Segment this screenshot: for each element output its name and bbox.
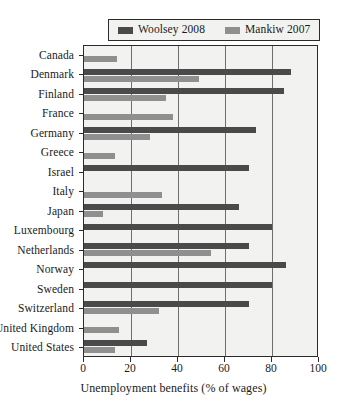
bar-row xyxy=(84,259,317,278)
bar-gap xyxy=(84,152,317,153)
bar-mankiw xyxy=(84,308,159,314)
bar-mankiw xyxy=(84,327,119,333)
bar-mankiw xyxy=(84,134,150,140)
legend-swatch-mankiw xyxy=(225,27,240,34)
y-axis-label: Canada xyxy=(0,45,79,65)
y-axis-label: Norway xyxy=(0,260,79,280)
plot-area xyxy=(83,45,318,357)
bar-gap xyxy=(84,346,317,347)
bar-rows xyxy=(84,46,317,356)
bar-row xyxy=(84,124,317,143)
y-axis-label: Luxembourg xyxy=(0,221,79,241)
bar-gap xyxy=(84,268,317,269)
y-axis-label: Italy xyxy=(0,182,79,202)
bar-row xyxy=(84,201,317,220)
bar-row xyxy=(84,317,317,336)
bar-row xyxy=(84,46,317,65)
y-axis-label: United States xyxy=(0,338,79,358)
x-axis-tick-label: 0 xyxy=(80,362,86,374)
legend-label-mankiw: Mankiw 2007 xyxy=(245,24,310,36)
y-axis-label: Japan xyxy=(0,201,79,221)
y-axis-label: France xyxy=(0,104,79,124)
bar-row xyxy=(84,143,317,162)
bar-row xyxy=(84,182,317,201)
x-axis-tick-label: 100 xyxy=(309,362,326,374)
y-axis-label: Israel xyxy=(0,162,79,182)
bar-mankiw xyxy=(84,153,115,159)
y-axis-label: Sweden xyxy=(0,279,79,299)
y-axis-label: Netherlands xyxy=(0,240,79,260)
bar-row xyxy=(84,104,317,123)
bar-row xyxy=(84,220,317,239)
bar-gap xyxy=(84,288,317,289)
bar-row xyxy=(84,162,317,181)
legend-label-woolsey: Woolsey 2008 xyxy=(138,24,205,36)
x-axis-tick-label: 60 xyxy=(218,362,230,374)
bar-mankiw xyxy=(84,211,103,217)
bar-row xyxy=(84,240,317,259)
bar-mankiw xyxy=(84,56,117,62)
bar-mankiw xyxy=(84,192,162,198)
bar-mankiw xyxy=(84,250,211,256)
x-axis-tick-label: 40 xyxy=(171,362,183,374)
chart-legend: Woolsey 2008 Mankiw 2007 xyxy=(108,19,320,41)
bar-mankiw xyxy=(84,76,199,82)
bar-gap xyxy=(84,55,317,56)
y-axis-label: Denmark xyxy=(0,65,79,85)
x-axis-title: Unemployment benefits (% of wages) xyxy=(0,381,347,396)
y-axis-label: United Kingdom xyxy=(0,318,79,338)
x-axis-tick-label: 80 xyxy=(265,362,277,374)
y-axis-labels: CanadaDenmarkFinlandFranceGermanyGreeceI… xyxy=(0,45,79,357)
bar-row xyxy=(84,65,317,84)
bar-mankiw xyxy=(84,95,166,101)
bar-mankiw xyxy=(84,347,115,353)
chart-figure: Woolsey 2008 Mankiw 2007 CanadaDenmarkFi… xyxy=(0,0,347,412)
bar-row xyxy=(84,85,317,104)
bar-gap xyxy=(84,230,317,231)
bar-row xyxy=(84,298,317,317)
bar-gap xyxy=(84,210,317,211)
y-axis-label: Greece xyxy=(0,143,79,163)
legend-entry-woolsey: Woolsey 2008 xyxy=(118,24,205,36)
x-axis-tick-label: 20 xyxy=(124,362,136,374)
bar-row xyxy=(84,279,317,298)
y-axis-label: Switzerland xyxy=(0,299,79,319)
x-axis-tick-labels: 020406080100 xyxy=(83,362,318,378)
y-axis-label: Finland xyxy=(0,84,79,104)
legend-swatch-woolsey xyxy=(118,27,133,34)
legend-entry-mankiw: Mankiw 2007 xyxy=(225,24,310,36)
bar-row xyxy=(84,337,317,356)
bar-gap xyxy=(84,171,317,172)
bar-mankiw xyxy=(84,114,173,120)
y-axis-label: Germany xyxy=(0,123,79,143)
